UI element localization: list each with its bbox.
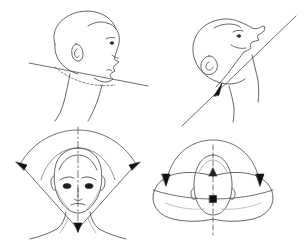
pivot-dot — [210, 196, 217, 203]
figure-root: Head in neutral profile, right-facing, w… — [0, 0, 307, 245]
head-movement-diagram — [0, 0, 307, 245]
eye-profile — [110, 42, 114, 45]
eye-right-front — [85, 183, 93, 188]
eye-left-front — [63, 183, 71, 188]
figure-background — [0, 0, 307, 245]
eye-extension — [237, 35, 241, 38]
